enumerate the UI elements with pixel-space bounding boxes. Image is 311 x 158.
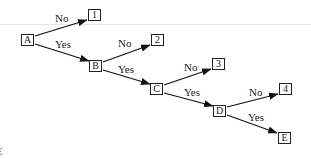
node-d: D <box>213 105 226 117</box>
node-c: C <box>150 83 163 95</box>
edge-label-c-no: No <box>184 62 197 73</box>
edge-label-b-yes: Yes <box>118 64 134 75</box>
edge-label-a-yes: Yes <box>55 39 71 50</box>
leaf-3: 3 <box>212 58 225 70</box>
leaf-2: 2 <box>151 34 164 46</box>
node-e: E <box>278 132 291 144</box>
leaf-1: 1 <box>88 9 101 21</box>
leaf-4: 4 <box>279 83 292 95</box>
cropped-left-fragment: E <box>0 145 3 157</box>
node-b: B <box>89 60 102 72</box>
edge-label-a-no: No <box>55 13 68 24</box>
edge-label-b-no: No <box>118 38 131 49</box>
edge-label-d-yes: Yes <box>248 112 264 123</box>
node-a: A <box>21 34 34 46</box>
edges-layer <box>0 0 311 158</box>
edge-label-d-no: No <box>249 87 262 98</box>
edge-label-c-yes: Yes <box>184 87 200 98</box>
decision-tree-diagram: A 1 B 2 C 3 D 4 E No Yes No Yes No Yes N… <box>0 0 311 158</box>
